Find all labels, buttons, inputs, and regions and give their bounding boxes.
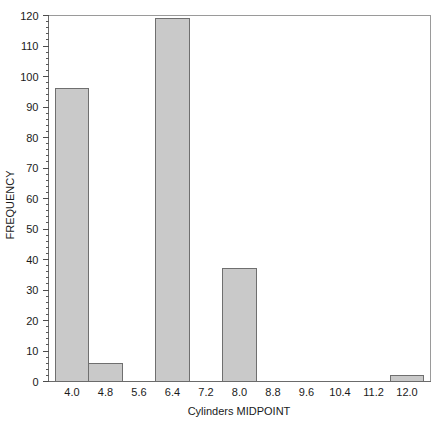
x-tick-label-7.2: 7.2 xyxy=(198,386,213,398)
chart-canvas: 0102030405060708090100110120 4.04.85.66.… xyxy=(0,0,438,424)
y-tick-label: 20 xyxy=(26,315,38,327)
x-tick-label-10.4: 10.4 xyxy=(329,386,350,398)
x-tick-label-9.6: 9.6 xyxy=(299,386,314,398)
y-tick-label: 90 xyxy=(26,101,38,113)
y-tick-label: 0 xyxy=(32,376,38,388)
bar-4.0 xyxy=(55,89,89,382)
x-tick-label-8.0: 8.0 xyxy=(232,386,247,398)
bar-6.4 xyxy=(156,19,190,382)
bar-8.0 xyxy=(223,269,257,382)
y-tick-label: 100 xyxy=(20,71,38,83)
y-tick-label: 60 xyxy=(26,193,38,205)
y-tick-label: 110 xyxy=(21,40,39,52)
histogram-chart: 0102030405060708090100110120 4.04.85.66.… xyxy=(0,0,438,424)
x-axis-title: Cylinders MIDPOINT xyxy=(188,405,291,417)
y-axis-title: FREQUENCY xyxy=(4,170,16,240)
x-tick-label-4.8: 4.8 xyxy=(98,386,113,398)
y-tick-label: 120 xyxy=(20,10,38,22)
x-tick-label-12.0: 12.0 xyxy=(396,386,417,398)
y-tick-label: 40 xyxy=(26,254,38,266)
y-axis-ticks: 0102030405060708090100110120 xyxy=(20,10,48,388)
x-tick-label-11.2: 11.2 xyxy=(363,386,384,398)
bar-12.0 xyxy=(390,375,424,381)
y-tick-label: 30 xyxy=(26,284,38,296)
y-tick-label: 70 xyxy=(26,162,38,174)
y-tick-label: 10 xyxy=(26,345,38,357)
bar-4.8 xyxy=(89,363,123,381)
x-tick-label-5.6: 5.6 xyxy=(131,386,146,398)
y-tick-label: 50 xyxy=(26,223,38,235)
x-axis-tick-labels: 4.04.85.66.47.28.08.89.610.411.212.0 xyxy=(64,386,417,398)
x-tick-label-8.8: 8.8 xyxy=(265,386,280,398)
x-tick-label-6.4: 6.4 xyxy=(165,386,180,398)
y-tick-label: 80 xyxy=(26,132,38,144)
x-tick-label-4.0: 4.0 xyxy=(64,386,79,398)
bars-group xyxy=(55,19,424,382)
